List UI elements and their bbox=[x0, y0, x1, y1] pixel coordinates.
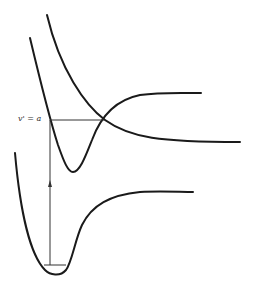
arrowhead-icon bbox=[48, 180, 52, 187]
level-label: v' = a bbox=[18, 114, 41, 123]
repulsive-curve bbox=[47, 15, 240, 142]
excited-bound-curve bbox=[30, 38, 201, 172]
potential-energy-diagram bbox=[0, 0, 253, 293]
ground-bound-curve bbox=[15, 153, 193, 275]
